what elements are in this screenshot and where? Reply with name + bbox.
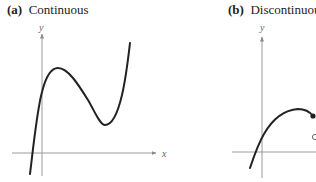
panel-a-continuous-curve	[30, 43, 130, 174]
panel-b-y-label: y	[259, 22, 265, 33]
panel-a-graph: y x	[12, 22, 167, 176]
panel-b-graph: y	[232, 22, 316, 178]
panel-b-filled-endpoint	[310, 113, 315, 118]
figure-canvas: y x y	[0, 0, 316, 182]
panel-b-open-circle	[312, 134, 316, 139]
panel-a-x-label: x	[161, 148, 167, 159]
panel-a-y-label: y	[38, 22, 44, 33]
panel-b-curve-segment	[250, 109, 313, 168]
